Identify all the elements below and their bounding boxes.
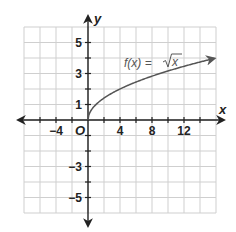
y-tick-label: 5: [75, 36, 82, 50]
x-tick-label: 8: [149, 124, 156, 138]
function-label-radicand: x: [171, 55, 179, 69]
svg-text:f(x) =: f(x) =: [124, 56, 152, 70]
y-tick-label: 3: [75, 67, 82, 81]
y-tick-label: −5: [68, 191, 82, 205]
y-tick-label: −3: [68, 160, 82, 174]
graph: −44812531−3−5 x y O f(x) = x: [0, 0, 236, 232]
x-axis-label: x: [218, 102, 227, 117]
x-tick-label: 4: [117, 124, 124, 138]
origin-label: O: [75, 123, 85, 138]
function-label: f(x) = x: [124, 54, 182, 70]
y-axis-label: y: [93, 11, 102, 26]
x-tick-label: −4: [49, 124, 63, 138]
y-tick-label: 1: [75, 98, 82, 112]
x-tick-label: 12: [177, 124, 191, 138]
function-label-prefix: f(x) =: [124, 56, 152, 70]
